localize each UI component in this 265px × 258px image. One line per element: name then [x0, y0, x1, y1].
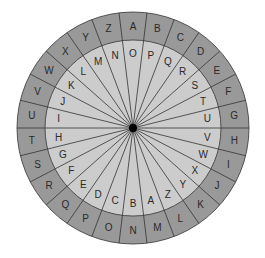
outer-letter: M	[153, 222, 161, 233]
center-hub	[129, 124, 137, 132]
inner-letter: M	[94, 56, 102, 67]
outer-letter: W	[44, 65, 54, 76]
cipher-wheel: ABCDEFGHIJKLMNOPQRSTUVWXYZ OPQRSTUVWXYZA…	[0, 0, 265, 258]
outer-letter: I	[227, 159, 230, 170]
outer-letter: N	[129, 225, 136, 236]
inner-letter: Y	[179, 179, 186, 190]
inner-letter: A	[148, 195, 155, 206]
inner-letter: X	[191, 165, 198, 176]
inner-letter: J	[60, 96, 65, 107]
outer-letter: R	[45, 180, 52, 191]
outer-letter: F	[225, 86, 231, 97]
outer-letter: C	[177, 32, 184, 43]
inner-letter: L	[80, 66, 86, 77]
inner-letter: C	[111, 195, 118, 206]
outer-letter: H	[231, 135, 238, 146]
outer-letter: D	[197, 46, 204, 57]
inner-letter: K	[68, 80, 75, 91]
inner-letter: D	[95, 189, 102, 200]
inner-letter: N	[111, 50, 118, 61]
inner-letter: P	[148, 50, 155, 61]
outer-letter: O	[105, 222, 113, 233]
inner-letter: U	[204, 113, 211, 124]
inner-letter: S	[191, 80, 198, 91]
inner-letter: W	[198, 149, 208, 160]
outer-letter: G	[230, 110, 238, 121]
inner-letter: V	[204, 132, 211, 143]
outer-letter: S	[34, 159, 41, 170]
inner-letter: F	[68, 165, 74, 176]
outer-letter: T	[29, 135, 35, 146]
inner-letter: I	[57, 113, 60, 124]
outer-letter: L	[178, 213, 184, 224]
inner-letter: H	[55, 132, 62, 143]
inner-letter: G	[59, 149, 67, 160]
outer-letter: X	[62, 46, 69, 57]
outer-letter: A	[130, 21, 137, 32]
outer-letter: Z	[106, 23, 112, 34]
outer-letter: J	[214, 180, 219, 191]
inner-letter: O	[129, 48, 137, 59]
outer-letter: K	[197, 199, 204, 210]
outer-letter: B	[154, 23, 161, 34]
inner-letter: T	[200, 96, 206, 107]
inner-letter: B	[130, 198, 137, 209]
outer-letter: Y	[82, 32, 89, 43]
outer-letter: P	[82, 213, 89, 224]
inner-letter: Q	[164, 56, 172, 67]
inner-letter: R	[179, 66, 186, 77]
outer-letter: U	[28, 110, 35, 121]
outer-letter: E	[214, 65, 221, 76]
inner-letter: E	[80, 179, 87, 190]
outer-letter: Q	[61, 199, 69, 210]
outer-letter: V	[34, 86, 41, 97]
inner-letter: Z	[165, 189, 171, 200]
